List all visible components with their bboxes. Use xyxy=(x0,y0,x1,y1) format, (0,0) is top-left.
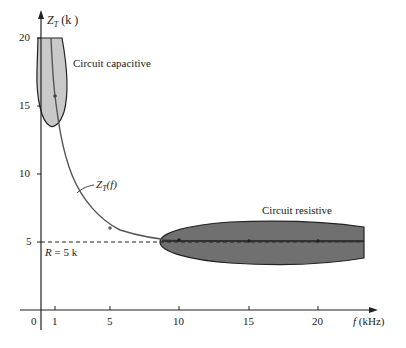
r-line-label: R = 5 k xyxy=(45,247,77,258)
data-point xyxy=(53,94,57,98)
x-tick-5: 5 xyxy=(107,316,113,327)
chart-canvas xyxy=(0,0,406,348)
y-axis-unit: (k ) xyxy=(58,13,78,27)
x-axis-arrow-icon xyxy=(369,307,378,313)
data-point xyxy=(247,239,251,243)
y-axis-arrow-icon xyxy=(38,10,44,19)
data-point xyxy=(177,238,181,242)
x-tick-20: 20 xyxy=(312,316,323,327)
y-tick-20: 20 xyxy=(19,32,30,43)
y-axis-symbol: Z xyxy=(47,13,54,27)
x-axis-label: f (kHz) xyxy=(353,316,384,327)
x-tick-10: 10 xyxy=(173,316,184,327)
y-tick-5: 5 xyxy=(26,236,32,247)
x-tick-1: 1 xyxy=(52,316,58,327)
x-axis-unit: (kHz) xyxy=(356,315,384,327)
r-symbol: R xyxy=(45,246,52,258)
curve-argument: (f) xyxy=(107,178,117,190)
y-tick-10: 10 xyxy=(19,168,30,179)
x-tick-0: 0 xyxy=(31,316,37,327)
resistive-region xyxy=(160,221,364,264)
curve-label: ZT(f) xyxy=(96,179,117,193)
data-point xyxy=(108,226,112,230)
y-axis-label: ZT (k ) xyxy=(47,14,78,29)
x-tick-15: 15 xyxy=(243,316,254,327)
resistive-label: Circuit resistive xyxy=(262,205,332,216)
data-point xyxy=(316,239,320,243)
r-value: = 5 k xyxy=(54,246,77,258)
y-tick-15: 15 xyxy=(19,100,30,111)
capacitive-label: Circuit capacitive xyxy=(73,58,151,69)
